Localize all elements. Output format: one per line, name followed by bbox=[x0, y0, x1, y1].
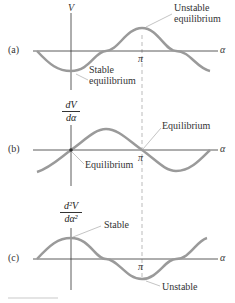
panel-a-tag: (a) bbox=[8, 45, 19, 55]
stable-label: Stable bbox=[104, 220, 129, 230]
unstable-equilibrium-label-line1: Unstable bbox=[174, 3, 210, 13]
stable-equilibrium-label-line2: equilibrium bbox=[89, 76, 136, 86]
panel-b-y-label: dV dα bbox=[62, 100, 80, 123]
panel-c-y-label: d²V dα² bbox=[60, 201, 82, 224]
panel-a-y-label: V bbox=[68, 3, 74, 13]
panel-c-x-label: α bbox=[220, 253, 225, 263]
panel-c-y-label-denominator: dα² bbox=[60, 214, 82, 224]
caption-fragment bbox=[8, 297, 58, 299]
leader-line bbox=[146, 281, 160, 286]
leader-line bbox=[143, 128, 161, 149]
equilibrium-label-pi: Equilibrium bbox=[162, 121, 210, 131]
panel-a-pi-label: π bbox=[138, 54, 143, 64]
panel-c-pi-label: π bbox=[138, 262, 143, 272]
unstable-label: Unstable bbox=[162, 282, 198, 292]
panel-b-tag: (b) bbox=[8, 144, 20, 154]
leader-line bbox=[73, 226, 101, 237]
panel-c-y-label-numerator: d²V bbox=[60, 201, 82, 211]
panel-b-y-label-denominator: dα bbox=[62, 113, 80, 123]
leader-line bbox=[146, 14, 172, 27]
panel-a-x-label: α bbox=[220, 45, 225, 55]
leader-line bbox=[72, 152, 84, 164]
equilibrium-label-origin: Equilibrium bbox=[85, 160, 133, 170]
unstable-equilibrium-label-line2: equilibrium bbox=[174, 14, 221, 24]
panel-c-tag: (c) bbox=[8, 253, 19, 263]
panel-b-pi-label: π bbox=[138, 153, 143, 163]
panel-b-x-label: α bbox=[220, 144, 225, 154]
panel-b-y-label-numerator: dV bbox=[62, 100, 80, 110]
stable-equilibrium-label-line1: Stable bbox=[89, 65, 114, 75]
diagram-canvas bbox=[0, 0, 235, 303]
leader-line bbox=[76, 74, 88, 80]
potential-curve bbox=[37, 28, 210, 71]
second-derivative-curve bbox=[37, 238, 207, 279]
equilibrium-point bbox=[69, 148, 73, 152]
